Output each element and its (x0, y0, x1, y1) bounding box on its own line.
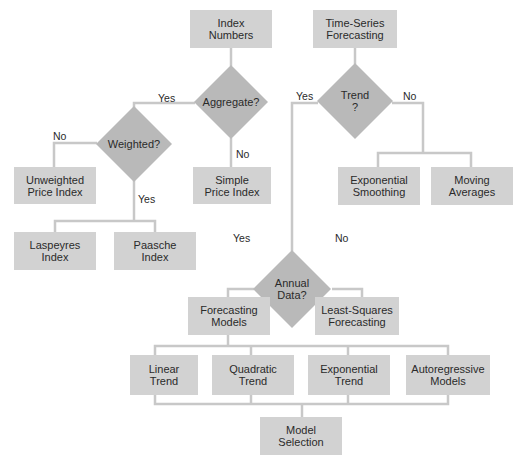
node-forecasting-models: Forecasting Models (188, 297, 270, 335)
node-label: Exponential Trend (320, 363, 378, 387)
node-label: Laspeyres Index (30, 239, 81, 263)
node-exponential-trend: Exponential Trend (308, 355, 390, 395)
edge-label-annual-no: No (335, 233, 348, 244)
node-paasche-index: Paasche Index (114, 232, 196, 270)
edge-label-aggregate-no: No (236, 149, 249, 160)
node-autoregressive-models: Autoregressive Models (406, 355, 490, 395)
node-moving-averages: Moving Averages (431, 167, 513, 205)
decision-label: Weighted? (96, 106, 172, 182)
decision-trend: Trend ? (317, 63, 393, 139)
node-label: Quadratic Trend (229, 363, 277, 387)
node-quadratic-trend: Quadratic Trend (212, 355, 294, 395)
edge-label-aggregate-yes: Yes (158, 93, 175, 104)
node-simple-price-index: Simple Price Index (193, 167, 271, 204)
node-index-numbers: Index Numbers (190, 10, 272, 48)
edge-label-weighted-no: No (53, 131, 66, 142)
decision-aggregate: Aggregate? (194, 65, 268, 139)
node-label: Forecasting Models (200, 304, 257, 328)
edge-label-trend-yes: Yes (296, 91, 313, 102)
node-label: Moving Averages (449, 174, 495, 198)
node-laspeyres-index: Laspeyres Index (14, 232, 96, 270)
flowchart-diagram: Index Numbers Aggregate? Weighted? Unwei… (0, 0, 523, 462)
node-model-selection: Model Selection (260, 417, 342, 455)
node-label: Autoregressive Models (411, 363, 484, 387)
node-least-squares-forecasting: Least-Squares Forecasting (315, 297, 399, 335)
edge-label-trend-no: No (403, 91, 416, 102)
node-label: Least-Squares Forecasting (321, 304, 393, 328)
decision-label: Aggregate? (194, 65, 268, 139)
edge-label-annual-yes: Yes (233, 233, 250, 244)
node-label: Unweighted Price Index (26, 174, 84, 198)
node-time-series-forecasting: Time-Series Forecasting (313, 10, 397, 48)
decision-weighted: Weighted? (96, 106, 172, 182)
node-label: Paasche Index (134, 239, 177, 263)
decision-label: Trend ? (317, 63, 393, 139)
node-label: Exponential Smoothing (350, 174, 408, 198)
node-unweighted-price-index: Unweighted Price Index (14, 167, 96, 204)
node-label: Time-Series Forecasting (326, 17, 385, 41)
node-label: Simple Price Index (204, 174, 259, 198)
node-exponential-smoothing: Exponential Smoothing (338, 167, 420, 205)
node-label: Linear Trend (149, 363, 180, 387)
node-label: Index Numbers (209, 17, 254, 41)
edge-label-weighted-yes: Yes (138, 194, 155, 205)
node-linear-trend: Linear Trend (130, 355, 198, 395)
node-label: Model Selection (278, 424, 323, 448)
